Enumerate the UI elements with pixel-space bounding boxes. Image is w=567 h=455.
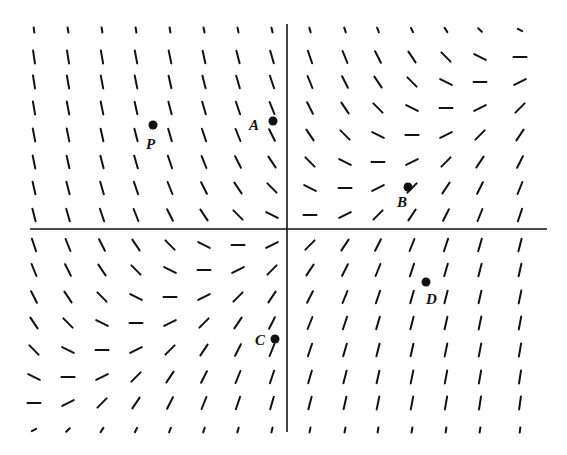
- slope-segment: [478, 28, 482, 32]
- slope-segment: [411, 344, 414, 357]
- slope-segment: [165, 240, 174, 249]
- slope-segment: [65, 264, 71, 276]
- slope-segment: [269, 317, 275, 329]
- slope-segment: [68, 28, 69, 33]
- point-label-p: P: [146, 137, 155, 152]
- slope-segment: [518, 209, 522, 221]
- slope-segment: [407, 77, 416, 86]
- slope-segment: [519, 291, 522, 304]
- slope-segment: [440, 132, 452, 138]
- slope-segment: [33, 182, 36, 195]
- slope-segment: [100, 209, 104, 221]
- point-label-d: D: [426, 292, 437, 307]
- slope-segment: [342, 76, 348, 88]
- slope-segment: [232, 267, 244, 273]
- slope-segment: [136, 28, 137, 33]
- slope-segment: [32, 239, 36, 251]
- slope-segment: [339, 212, 351, 218]
- slope-segment: [134, 129, 137, 142]
- slope-segment: [101, 76, 103, 89]
- slope-segment: [67, 102, 69, 115]
- slope-segment: [67, 51, 69, 64]
- slope-segment: [67, 129, 70, 142]
- slope-segment: [410, 264, 414, 276]
- slope-segment: [97, 292, 106, 301]
- slope-segment: [101, 428, 104, 432]
- slope-segment: [339, 159, 351, 165]
- point-p: [149, 121, 158, 130]
- slope-segment: [410, 317, 413, 330]
- slope-segment: [32, 429, 36, 431]
- labeled-points: [149, 117, 431, 344]
- slope-segment: [99, 239, 105, 251]
- slope-segment: [63, 318, 72, 327]
- slope-segment: [445, 371, 447, 384]
- slope-segment: [203, 51, 206, 64]
- slope-segment: [309, 28, 310, 33]
- slope-segment: [164, 267, 176, 273]
- slope-segment: [343, 291, 348, 303]
- slope-segment: [517, 156, 523, 168]
- slope-segment: [444, 264, 448, 276]
- slope-segment: [373, 103, 382, 112]
- point-label-b: B: [397, 195, 407, 210]
- slope-segment: [67, 156, 70, 169]
- slope-segment: [480, 428, 481, 433]
- slope-segment: [377, 28, 379, 33]
- slope-segment: [478, 239, 482, 251]
- slope-segment: [308, 371, 312, 383]
- slope-segment: [130, 347, 142, 353]
- slope-segment: [372, 185, 384, 191]
- slope-segment: [344, 28, 346, 33]
- slope-segment: [134, 209, 139, 221]
- slope-segment: [236, 102, 240, 114]
- slope-segment: [475, 130, 484, 139]
- slope-segment: [236, 76, 240, 88]
- point-label-a: A: [249, 118, 259, 133]
- slope-segment: [100, 156, 103, 169]
- slope-segment: [408, 52, 415, 63]
- slope-segment: [32, 209, 35, 222]
- slope-segment: [235, 156, 241, 168]
- slope-segment: [441, 52, 450, 61]
- slope-segment: [308, 51, 312, 63]
- slope-segment: [64, 292, 71, 303]
- slope-segment: [234, 183, 241, 194]
- slope-segment: [478, 264, 481, 277]
- slope-segment: [167, 209, 173, 221]
- slope-segment: [445, 28, 448, 32]
- slope-segment: [474, 105, 486, 111]
- slope-segment: [515, 103, 524, 112]
- slope-segment: [131, 372, 140, 381]
- slope-segment: [202, 156, 207, 168]
- slope-segment: [445, 317, 448, 330]
- slope-segment: [236, 51, 239, 64]
- slope-segment: [134, 182, 138, 194]
- slope-segment: [270, 102, 275, 114]
- slope-segment: [101, 51, 103, 64]
- slope-segment: [202, 102, 206, 114]
- slope-segment: [62, 400, 74, 406]
- slope-segment: [198, 242, 210, 248]
- slope-segment: [376, 344, 379, 357]
- slope-segment: [98, 265, 105, 276]
- slope-segment: [96, 320, 108, 326]
- slope-segment: [411, 371, 414, 384]
- slope-segment: [479, 397, 481, 410]
- slope-segment: [135, 428, 137, 432]
- slope-segment: [520, 428, 521, 433]
- slope-segment: [266, 212, 278, 218]
- slope-segment: [100, 182, 104, 194]
- slope-segment: [411, 397, 413, 410]
- slope-segment: [341, 103, 348, 114]
- slope-segment: [516, 130, 523, 141]
- slope-segment: [446, 428, 447, 433]
- slope-segment: [440, 79, 452, 85]
- slope-segment: [375, 239, 381, 251]
- slope-segment: [201, 182, 207, 194]
- slope-segment: [270, 397, 274, 409]
- slope-segment: [233, 292, 242, 301]
- slope-segment: [514, 79, 526, 85]
- slope-segment: [204, 28, 205, 33]
- slope-segment: [308, 397, 311, 410]
